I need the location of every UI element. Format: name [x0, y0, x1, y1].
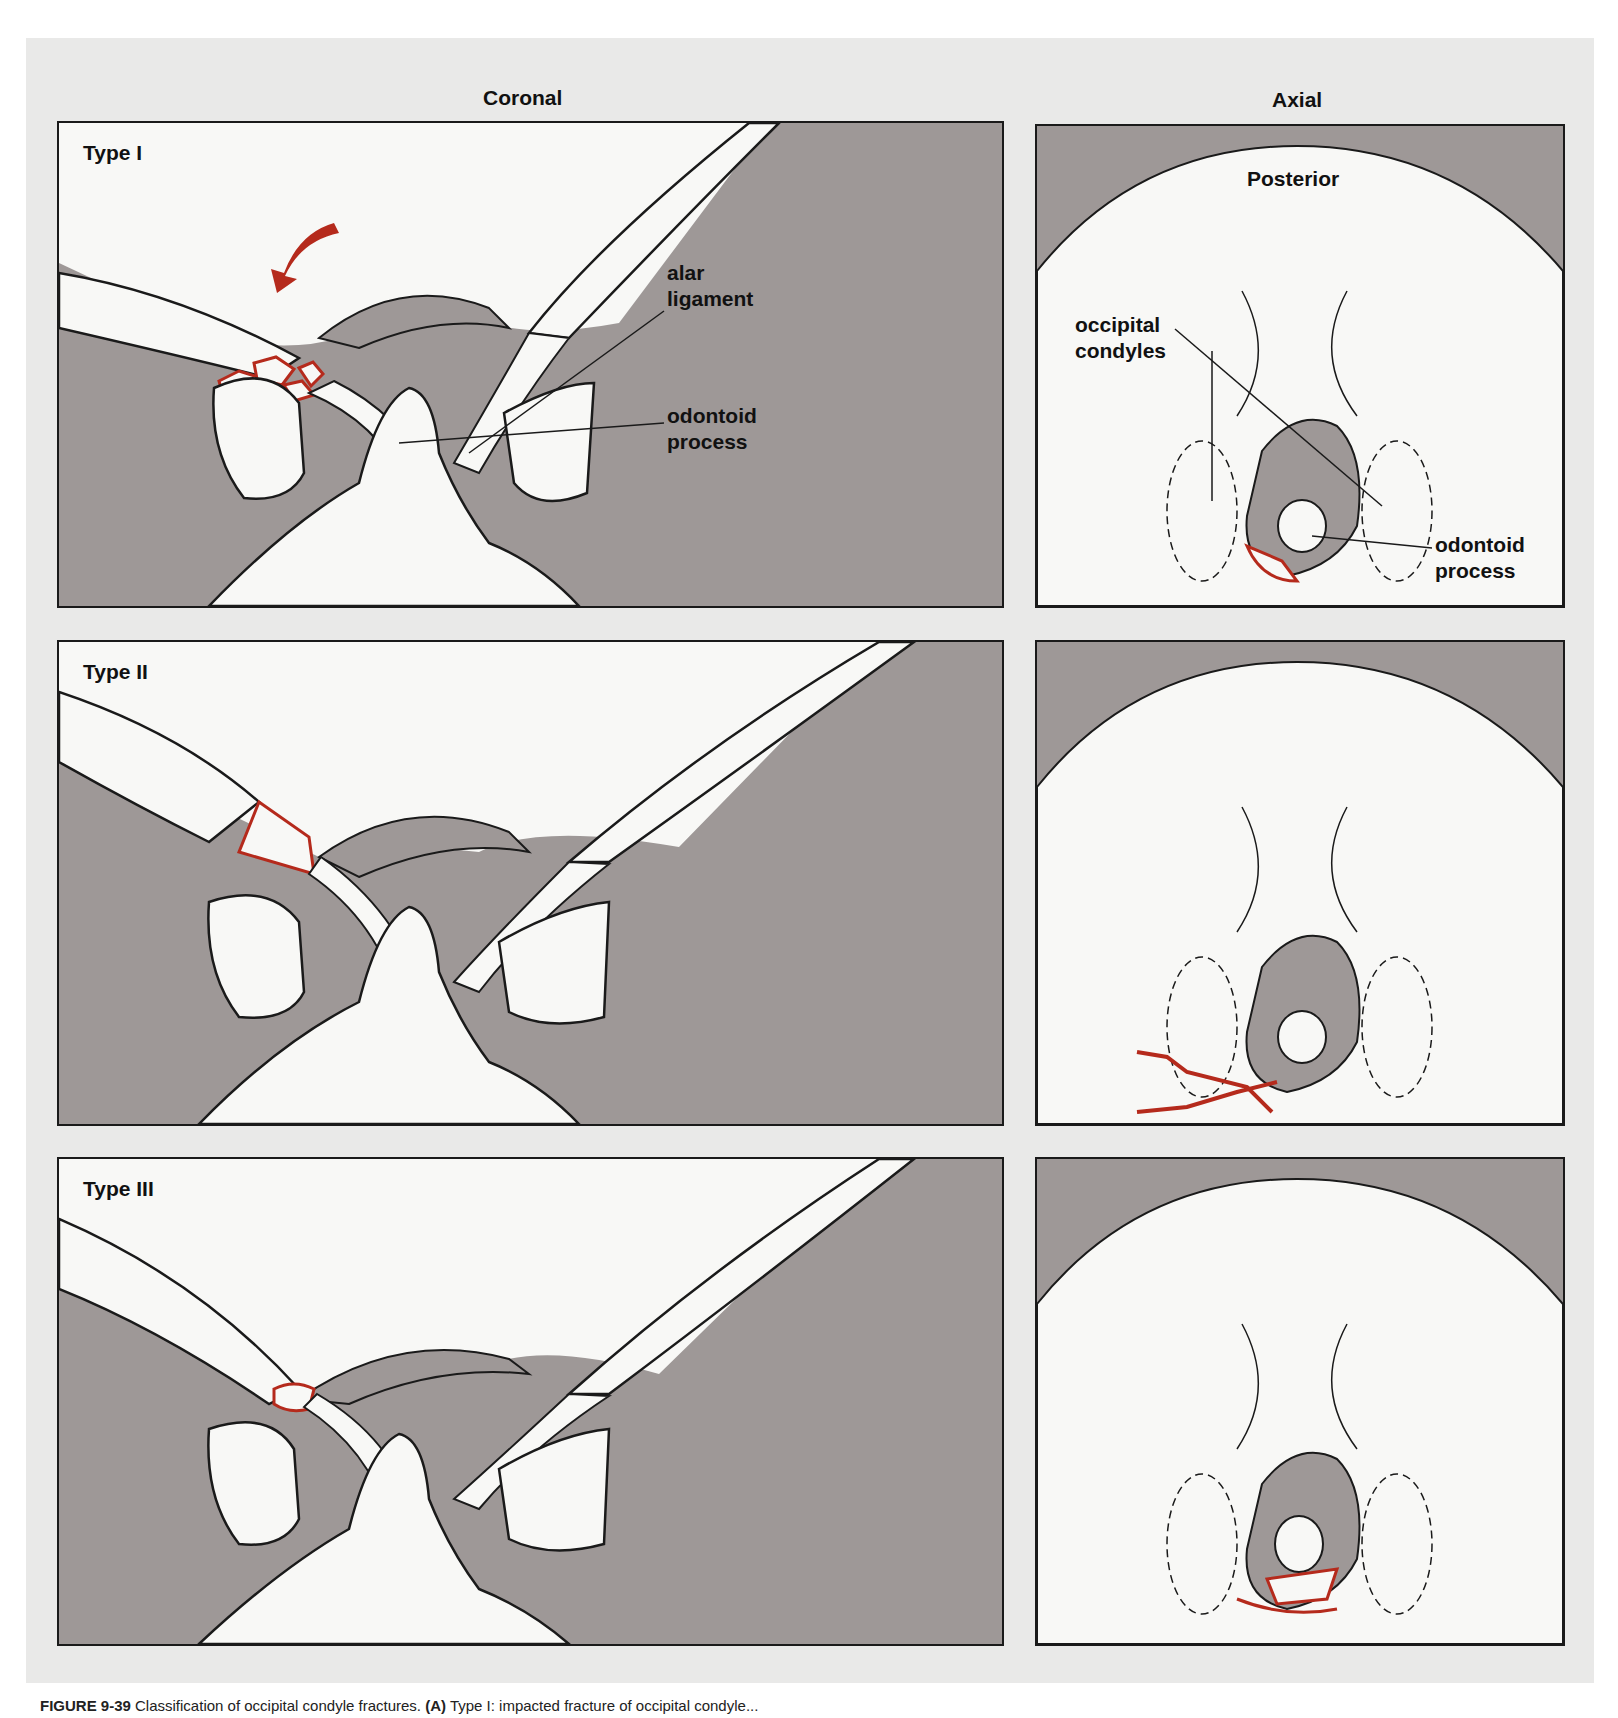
axial-panel-type-1: Posterior occipital condyles odontoid pr…: [1035, 124, 1565, 608]
type-label: Type I: [83, 141, 142, 165]
caption-text: Classification of occipital condyle frac…: [135, 1697, 421, 1714]
callout-odontoid-process: odontoid process: [667, 403, 757, 455]
caption-part-text: Type I: impacted fracture of occipital c…: [450, 1697, 758, 1714]
coronal-illustration-type-2: [59, 642, 1002, 1124]
type-label: Type II: [83, 660, 148, 684]
type-label: Type III: [83, 1177, 154, 1201]
coronal-panel-type-3: Type III: [57, 1157, 1004, 1646]
axial-column-title: Axial: [1272, 88, 1322, 112]
axial-panel-type-2: [1035, 640, 1565, 1126]
coronal-illustration-type-1: [59, 123, 1002, 606]
coronal-illustration-type-3: [59, 1159, 1002, 1644]
axial-orientation-posterior: Posterior: [1247, 166, 1339, 192]
axial-illustration-type-2: [1037, 642, 1563, 1124]
figure-caption: FIGURE 9-39 Classification of occipital …: [40, 1697, 758, 1714]
coronal-panel-type-2: Type II: [57, 640, 1004, 1126]
axial-illustration-type-3: [1037, 1159, 1563, 1644]
callout-axial-odontoid-process: odontoid process: [1435, 532, 1525, 584]
coronal-column-title: Coronal: [483, 86, 562, 110]
callout-alar-ligament: alar ligament: [667, 260, 753, 312]
caption-part-label: (A): [425, 1697, 446, 1714]
caption-figure-number: FIGURE 9-39: [40, 1697, 131, 1714]
callout-occipital-condyles: occipital condyles: [1075, 312, 1166, 364]
axial-panel-type-3: [1035, 1157, 1565, 1646]
coronal-panel-type-1: Type I alar ligament odontoid process: [57, 121, 1004, 608]
